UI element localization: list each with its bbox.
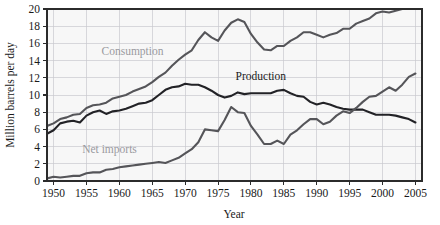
x-tick-label: 1950 [42,187,65,199]
y-tick-label: 20 [29,3,41,15]
series-label-consumption: Consumption [102,45,164,58]
x-tick-label: 2000 [371,187,394,199]
x-tick-label: 1955 [75,187,98,199]
y-tick-label: 0 [34,175,40,187]
x-tick-label: 1965 [141,187,164,199]
y-axis-title: Million barrels per day [4,42,17,148]
y-tick-label: 10 [29,89,41,101]
series-label-production: Production [236,70,287,82]
chart-canvas: 02468101214161820 1950195519601965197019… [0,0,440,225]
x-tick-label: 1985 [272,187,295,199]
oil-supply-line-chart: 02468101214161820 1950195519601965197019… [0,0,440,225]
x-tick-label: 2005 [404,187,427,199]
y-tick-label: 16 [29,37,41,49]
x-axis-tick-labels: 1950195519601965197019751980198519901995… [42,187,427,199]
y-tick-label: 4 [34,141,40,153]
x-axis-title: Year [223,208,244,220]
series-label-net-imports: Net imports [82,143,137,156]
y-tick-label: 14 [29,55,41,67]
x-tick-label: 1960 [108,187,131,199]
x-tick-label: 1970 [174,187,197,199]
x-tick-label: 1980 [239,187,262,199]
x-tick-label: 1995 [338,187,361,199]
x-tick-label: 1975 [207,187,230,199]
y-tick-label: 8 [34,106,40,118]
y-axis-tick-labels: 02468101214161820 [29,3,41,187]
y-tick-label: 6 [34,123,40,135]
y-tick-label: 2 [34,158,40,170]
x-tick-label: 1990 [305,187,328,199]
y-tick-label: 12 [29,72,41,84]
y-tick-label: 18 [29,20,41,32]
